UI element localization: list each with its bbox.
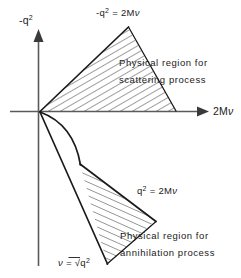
kinematic-plane-diagram: -q2 2Mν -q2 = 2Mν q2 = 2Mν ν = √q2 (0, 0, 241, 278)
annihilation-caption-line2: annihilation process (120, 247, 215, 258)
svg-text:-q2 = 2Mν: -q2 = 2Mν (96, 7, 140, 19)
x-axis-arrowhead-icon (197, 107, 209, 117)
scattering-caption-line2: scattering process (119, 74, 206, 85)
scattering-region-shape (40, 27, 176, 112)
curve-eq-prefix: ν = (58, 257, 75, 268)
x-axis-label-symbol: ν (228, 105, 234, 117)
upper-eq-symbol: ν (135, 7, 140, 18)
curve-equation-label: ν = √q2 (58, 257, 90, 269)
y-axis-label-exponent: 2 (29, 14, 33, 21)
x-axis-label-main: 2M (213, 105, 228, 117)
svg-text:q2 = 2Mν: q2 = 2Mν (137, 185, 177, 197)
figure-root: -q2 2Mν -q2 = 2Mν q2 = 2Mν ν = √q2 (0, 0, 241, 278)
lower-eq-equals: = 2M (147, 185, 173, 196)
annihilation-region-caption: Physical region for annihilation process (120, 230, 215, 258)
curve-eq-exponent: 2 (86, 257, 90, 264)
lower-eq-symbol: ν (172, 185, 177, 196)
y-axis-arrowhead-icon (34, 29, 44, 42)
upper-eq-equals: = 2M (109, 7, 135, 18)
svg-text:ν = √q2: ν = √q2 (58, 257, 90, 269)
annihilation-caption-line1: Physical region for (120, 230, 209, 241)
upper-eq-prefix: -q (96, 7, 105, 18)
lower-line-equation-label: q2 = 2Mν (137, 185, 177, 197)
scattering-caption-line1: Physical region for (119, 57, 208, 68)
upper-line-equation-label: -q2 = 2Mν (96, 7, 140, 19)
svg-text:-q2: -q2 (19, 14, 33, 26)
y-axis-label: -q2 (19, 14, 33, 26)
svg-text:2Mν: 2Mν (213, 105, 234, 117)
x-axis-label: 2Mν (213, 105, 234, 117)
y-axis-label-main: -q (19, 14, 29, 26)
